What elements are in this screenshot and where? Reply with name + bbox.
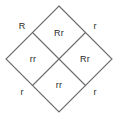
allele-label-top-left: R: [19, 22, 26, 31]
punnett-cell-right: Rr: [80, 55, 90, 64]
punnett-cell-left: rr: [30, 55, 36, 64]
allele-label-bottom-left: r: [20, 88, 23, 97]
punnett-square-grid: [0, 0, 118, 118]
punnett-cell-top: Rr: [54, 29, 64, 38]
allele-label-top-right: r: [93, 22, 96, 31]
inner-divider-lines: [33, 33, 86, 86]
punnett-square-diagram: Rr rr Rr rr R r r r: [0, 0, 118, 118]
allele-label-bottom-right: r: [93, 88, 96, 97]
punnett-cell-bottom: rr: [56, 81, 62, 90]
